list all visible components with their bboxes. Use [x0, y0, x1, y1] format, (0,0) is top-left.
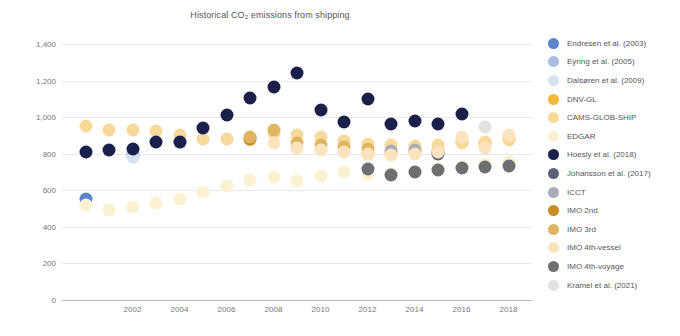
data-point[interactable]	[314, 169, 327, 182]
data-point[interactable]	[502, 129, 515, 142]
y-axis-tick-label: 200	[4, 259, 56, 268]
data-point[interactable]	[408, 147, 421, 160]
legend-swatch-icon	[548, 56, 559, 67]
legend-item[interactable]: Dalsøren et al. (2009)	[548, 71, 680, 90]
data-point[interactable]	[79, 145, 92, 158]
chart-legend: Endresen et al. (2003)Eyring et al. (200…	[548, 34, 680, 294]
chart-container: Historical CO₂ emissions from shipping C…	[0, 0, 680, 336]
data-point[interactable]	[338, 145, 351, 158]
data-point[interactable]	[103, 144, 116, 157]
legend-item[interactable]: IMO 2nd	[548, 201, 680, 220]
data-point[interactable]	[267, 136, 280, 149]
data-point[interactable]	[291, 67, 304, 80]
data-point[interactable]	[432, 145, 445, 158]
data-point[interactable]	[126, 123, 139, 136]
data-point[interactable]	[197, 122, 210, 135]
data-point[interactable]	[314, 144, 327, 157]
legend-item[interactable]: Endresen et al. (2003)	[548, 34, 680, 53]
data-point[interactable]	[455, 108, 468, 121]
data-point[interactable]	[126, 143, 139, 156]
legend-swatch-icon	[548, 168, 559, 179]
legend-item[interactable]: Eyring et al. (2005)	[548, 53, 680, 72]
y-axis-tick-label: 1,000	[4, 113, 56, 122]
x-axis-tick-label: 2002	[113, 305, 153, 314]
x-axis-tick-label: 2014	[395, 305, 435, 314]
legend-item[interactable]: CAMS-GLOB-SHIP	[548, 108, 680, 127]
legend-item-label: Endresen et al. (2003)	[567, 39, 646, 48]
data-point[interactable]	[479, 142, 492, 155]
data-point[interactable]	[361, 92, 374, 105]
legend-item-label: IMO 2nd	[567, 206, 598, 215]
legend-swatch-icon	[548, 280, 559, 291]
data-point[interactable]	[103, 204, 116, 217]
legend-item-label: Kramel et al. (2021)	[567, 281, 637, 290]
legend-item[interactable]: EDGAR	[548, 127, 680, 146]
legend-item-label: Eyring et al. (2005)	[567, 57, 635, 66]
legend-item-label: EDGAR	[567, 132, 595, 141]
x-axis-tick-label: 2010	[301, 305, 341, 314]
y-axis-tick-label: 600	[4, 186, 56, 195]
data-point[interactable]	[173, 135, 186, 148]
legend-item[interactable]: IMO 4th-vessel	[548, 239, 680, 258]
legend-item[interactable]: Hoesly et al. (2018)	[548, 146, 680, 165]
legend-swatch-icon	[548, 261, 559, 272]
data-point[interactable]	[220, 133, 233, 146]
data-point[interactable]	[385, 148, 398, 161]
x-axis-tick-label: 2018	[489, 305, 529, 314]
data-point[interactable]	[291, 175, 304, 188]
data-point[interactable]	[455, 162, 468, 175]
gridline	[62, 263, 532, 264]
data-point[interactable]	[79, 120, 92, 133]
data-point[interactable]	[150, 197, 163, 210]
y-axis-tick-label: 1,200	[4, 76, 56, 85]
legend-item[interactable]: Johansson et al. (2017)	[548, 164, 680, 183]
legend-item[interactable]: IMO 4th-voyage	[548, 257, 680, 276]
data-point[interactable]	[244, 91, 257, 104]
legend-item-label: ICCT	[567, 188, 586, 197]
data-point[interactable]	[267, 171, 280, 184]
data-point[interactable]	[267, 80, 280, 93]
gridline	[62, 227, 532, 228]
data-point[interactable]	[79, 198, 92, 211]
legend-swatch-icon	[548, 75, 559, 86]
data-point[interactable]	[479, 160, 492, 173]
data-point[interactable]	[103, 123, 116, 136]
data-point[interactable]	[267, 123, 280, 136]
legend-item[interactable]: ICCT	[548, 183, 680, 202]
legend-item[interactable]: IMO 3rd	[548, 220, 680, 239]
data-point[interactable]	[291, 142, 304, 155]
data-point[interactable]	[244, 131, 257, 144]
data-point[interactable]	[338, 115, 351, 128]
data-point[interactable]	[502, 159, 515, 172]
data-point[interactable]	[432, 164, 445, 177]
data-point[interactable]	[197, 186, 210, 199]
data-point[interactable]	[479, 121, 492, 134]
gridline	[62, 44, 532, 45]
data-point[interactable]	[150, 135, 163, 148]
y-axis-tick-label: 800	[4, 149, 56, 158]
data-point[interactable]	[361, 163, 374, 176]
legend-item[interactable]: DNV-GL	[548, 90, 680, 109]
data-point[interactable]	[385, 117, 398, 130]
data-point[interactable]	[385, 168, 398, 181]
data-point[interactable]	[455, 131, 468, 144]
data-point[interactable]	[126, 200, 139, 213]
data-point[interactable]	[361, 147, 374, 160]
legend-item[interactable]: Kramel et al. (2021)	[548, 276, 680, 295]
data-point[interactable]	[244, 174, 257, 187]
data-point[interactable]	[338, 166, 351, 179]
data-point[interactable]	[220, 109, 233, 122]
plot-area	[62, 44, 532, 300]
data-point[interactable]	[220, 179, 233, 192]
x-axis-line	[62, 300, 532, 301]
x-axis-tick-label: 2016	[442, 305, 482, 314]
data-point[interactable]	[314, 103, 327, 116]
x-axis-tick-label: 2012	[348, 305, 388, 314]
data-point[interactable]	[408, 114, 421, 127]
legend-item-label: IMO 3rd	[567, 225, 596, 234]
x-axis-tick-label: 2008	[254, 305, 294, 314]
data-point[interactable]	[432, 117, 445, 130]
legend-item-label: DNV-GL	[567, 95, 597, 104]
data-point[interactable]	[408, 166, 421, 179]
data-point[interactable]	[173, 192, 186, 205]
